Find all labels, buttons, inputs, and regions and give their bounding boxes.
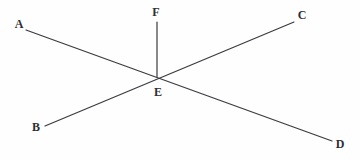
geometry-diagram: A B C D E F	[0, 0, 360, 160]
point-label-b: B	[32, 121, 40, 133]
point-label-d: D	[336, 138, 345, 150]
line-segment-bc	[45, 22, 294, 126]
point-label-e: E	[154, 86, 162, 98]
point-label-f: F	[152, 6, 159, 18]
point-label-c: C	[298, 9, 307, 21]
diagram-line-layer	[0, 0, 360, 160]
line-segment-ad	[26, 30, 332, 141]
point-label-a: A	[15, 18, 24, 30]
